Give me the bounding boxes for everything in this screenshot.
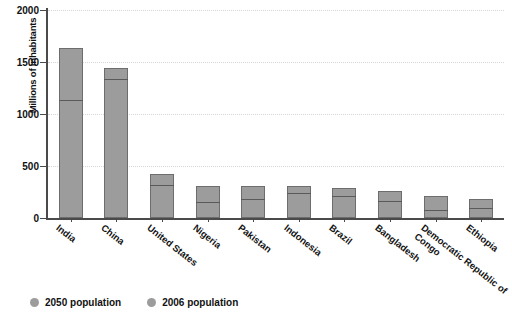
y-axis-tick <box>40 62 46 63</box>
y-axis-tick <box>40 166 46 167</box>
bar-bangladesh[interactable] <box>378 191 402 218</box>
bar-slot <box>458 10 504 218</box>
y-axis-tick-label: 1500 <box>17 57 39 68</box>
plot-area: 0500100015002000 <box>46 10 504 218</box>
bar-brazil[interactable] <box>332 188 356 218</box>
bar-split-line <box>332 196 356 197</box>
legend-circle-icon <box>30 298 39 307</box>
y-axis-tick <box>40 218 46 219</box>
bar-split-line <box>196 202 220 203</box>
bar-slot <box>185 10 231 218</box>
x-axis-label-bangladesh: Bangladesh <box>373 222 422 264</box>
bar-split-line <box>104 79 128 80</box>
bar-split-line <box>287 193 311 194</box>
bar-ethiopia[interactable] <box>469 199 493 218</box>
bar-slot <box>139 10 185 218</box>
x-axis-label-china: China <box>100 222 128 247</box>
bar-united-states[interactable] <box>150 174 174 218</box>
y-axis-tick <box>40 114 46 115</box>
bar-slot <box>367 10 413 218</box>
bar-slot <box>230 10 276 218</box>
x-axis-label-nigeria: Nigeria <box>191 222 223 251</box>
bar-slot <box>322 10 368 218</box>
bar-slot <box>276 10 322 218</box>
bar-split-line <box>378 201 402 202</box>
x-axis-label-brazil: Brazil <box>328 222 355 247</box>
y-axis-tick-label: 500 <box>22 161 39 172</box>
bar-group <box>48 10 504 218</box>
bar-split-line <box>241 199 265 200</box>
bar-china[interactable] <box>104 68 128 218</box>
bar-slot <box>94 10 140 218</box>
y-axis-tick <box>40 10 46 11</box>
x-axis-label-democratic-republic-of-congo: Democratic Republic of Congo <box>412 222 511 306</box>
legend-label: 2006 population <box>162 297 238 308</box>
y-axis-tick-label: 2000 <box>17 5 39 16</box>
bar-split-line <box>469 208 493 209</box>
bar-split-line <box>150 185 174 186</box>
bar-split-line <box>424 210 448 211</box>
bar-pakistan[interactable] <box>241 186 265 218</box>
y-axis-title: Millions of inhabitants <box>27 0 38 146</box>
bar-slot <box>413 10 459 218</box>
bar-slot <box>48 10 94 218</box>
x-axis-label-pakistan: Pakistan <box>236 222 274 255</box>
y-axis-tick-label: 0 <box>33 213 39 224</box>
legend-item[interactable]: 2050 population <box>30 297 121 308</box>
bar-india[interactable] <box>59 48 83 218</box>
legend-item[interactable]: 2006 population <box>147 297 238 308</box>
x-axis-label-indonesia: Indonesia <box>282 222 324 258</box>
x-axis-label-india: India <box>54 222 78 244</box>
legend-label: 2050 population <box>45 297 121 308</box>
bar-democratic-republic-of-congo[interactable] <box>424 196 448 218</box>
bar-indonesia[interactable] <box>287 186 311 218</box>
population-bar-chart: Millions of inhabitants 0500100015002000… <box>0 0 512 319</box>
x-axis-label-ethiopia: Ethiopia <box>464 222 500 254</box>
bar-split-line <box>59 100 83 101</box>
y-axis-tick-label: 1000 <box>17 109 39 120</box>
chart-legend: 2050 population2006 population <box>30 297 238 308</box>
legend-circle-icon <box>147 298 156 307</box>
bar-nigeria[interactable] <box>196 186 220 218</box>
x-axis-labels: IndiaChinaUnited StatesNigeriaPakistanIn… <box>48 222 504 290</box>
